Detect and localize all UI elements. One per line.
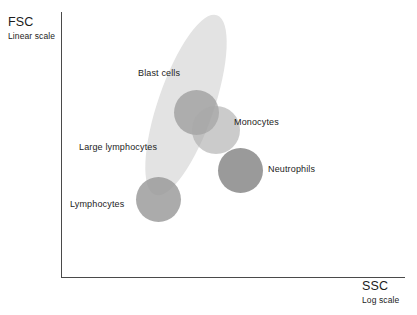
- population-blob-lymphocytes: [136, 177, 181, 222]
- x-axis-title-subtitle: Log scale: [362, 295, 399, 306]
- y-axis-line: [61, 12, 62, 278]
- population-label-neutrophils: Neutrophils: [268, 164, 315, 174]
- y-axis-title: FSC Linear scale: [8, 15, 55, 41]
- x-axis-line: [61, 277, 405, 278]
- population-label-large-lymphocytes: Large lymphocytes: [79, 142, 157, 152]
- x-axis-title-main: SSC: [362, 279, 399, 295]
- y-axis-title-main: FSC: [8, 15, 55, 31]
- population-blob-neutrophils: [218, 148, 263, 193]
- population-label-monocytes: Monocytes: [234, 117, 279, 127]
- population-label-lymphocytes: Lymphocytes: [70, 199, 124, 209]
- x-axis-title: SSC Log scale: [362, 279, 399, 305]
- y-axis-title-subtitle: Linear scale: [8, 31, 55, 42]
- scatter-plot-canvas: FSC Linear scale SSC Log scale Blast cel…: [0, 0, 417, 315]
- population-blob-monocytes: [192, 106, 240, 154]
- population-label-blast-cells: Blast cells: [138, 68, 180, 78]
